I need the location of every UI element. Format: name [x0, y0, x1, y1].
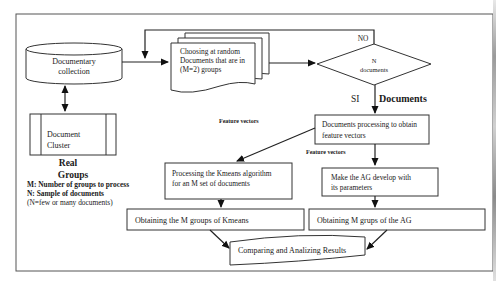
ag-develop-node: Make the AG develop with its parameters	[322, 168, 438, 196]
ag-groups-label: Obtaining M grups of the AG	[317, 216, 412, 225]
compare-label: Comparing and Analizing Results	[238, 246, 346, 255]
decision-line1: N	[372, 57, 377, 64]
kmeans-processing-node: Processing the Kmeans algorithm for an M…	[165, 163, 292, 199]
processing-line1: Documents processing to obtain	[322, 120, 417, 129]
documentary-collection-line1: Documentary	[52, 57, 96, 66]
compare-results-node: Comparing and Analizing Results	[230, 235, 365, 265]
legend-n: N: Sample of documents	[27, 189, 104, 198]
decision-line2: documents	[360, 66, 389, 73]
no-label: NO	[358, 34, 369, 43]
real-groups-line2: Groups	[58, 170, 89, 180]
choosing-documents-node: Choosing at random Documents that are in…	[171, 33, 269, 92]
decision-diamond: N documents	[317, 44, 431, 85]
documents-label: Documents	[379, 93, 427, 104]
processing-to-kmeans-arrow	[237, 128, 315, 161]
document-cluster-line1: Document	[47, 130, 81, 139]
document-cluster-line2: Cluster	[47, 141, 70, 150]
choosing-line1: Choosing at random	[180, 47, 240, 56]
choosing-line3: (M=2) groups	[180, 65, 221, 74]
ag-develop-line2: its parameters	[331, 183, 372, 192]
si-label: SI	[351, 94, 359, 104]
documentary-collection-node: Documentary collection	[26, 43, 122, 84]
documentary-collection-line2: collection	[58, 67, 90, 76]
flowchart-diagram: Documentary collection Document Cluster …	[0, 0, 496, 281]
feature-vectors-right-label: Feature vectors	[306, 149, 346, 155]
kmeans-groups-node: Obtaining the M groups of Kmeans	[127, 209, 304, 230]
ag-develop-line1: Make the AG develop with	[331, 173, 411, 182]
choosing-line2: Documents that are in	[180, 56, 245, 65]
legend-m: M: Number of groups to process	[27, 180, 129, 189]
kmeans-line1: Processing the Kmeans algorithm	[172, 169, 272, 178]
kmeans-groups-to-compare-arrow	[210, 230, 229, 248]
document-cluster-node: Document Cluster	[30, 114, 116, 155]
kmeans-groups-label: Obtaining the M groups of Kmeans	[135, 216, 249, 225]
documents-processing-node: Documents processing to obtain feature v…	[315, 115, 429, 144]
ag-groups-to-compare-arrow	[367, 230, 387, 249]
ag-groups-node: Obtaining M grups of the AG	[309, 209, 485, 230]
legend-note: (N=few or many documents)	[27, 198, 113, 207]
real-groups-line1: Real	[59, 158, 78, 168]
processing-line2: feature vectors	[322, 131, 366, 140]
kmeans-line2: for an M set of documents	[172, 179, 250, 188]
feature-vectors-left-label: Feature vectors	[219, 118, 259, 124]
